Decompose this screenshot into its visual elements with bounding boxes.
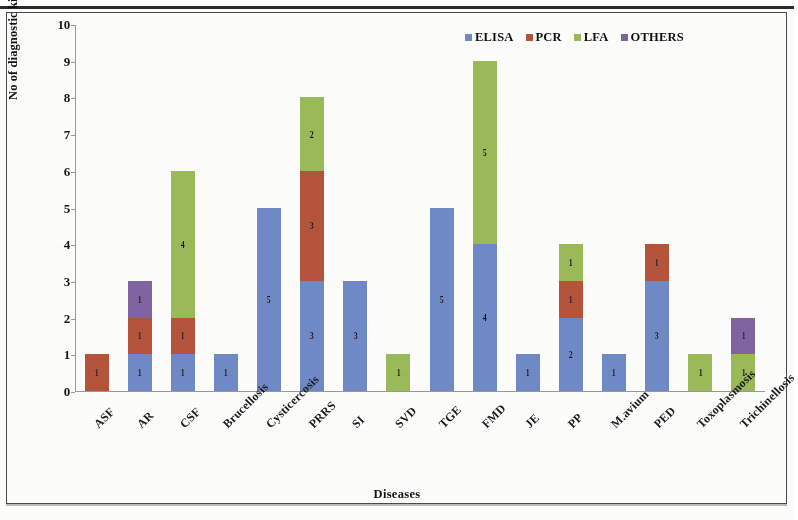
bar-segment-value: 1 (181, 367, 185, 378)
bar-stack[interactable]: 31 (645, 244, 669, 391)
y-tick-label: 2 (42, 311, 70, 327)
y-axis-line (75, 25, 76, 392)
bar-stack[interactable]: 1 (516, 354, 540, 391)
y-tick-mark (71, 25, 75, 26)
bar-segment-elisa[interactable]: 3 (645, 281, 669, 391)
bar-segment-value: 3 (353, 330, 357, 341)
bar-stack[interactable]: 1 (602, 354, 626, 391)
bar-segment-value: 1 (138, 294, 142, 305)
y-tick-label: 6 (42, 164, 70, 180)
y-tick-mark (71, 98, 75, 99)
bar-segment-elisa[interactable]: 1 (516, 354, 540, 391)
bar-segment-elisa[interactable]: 4 (473, 244, 497, 391)
figure-top-rule (0, 6, 794, 9)
bar-segment-value: 1 (526, 367, 530, 378)
bar-segment-pcr[interactable]: 3 (300, 171, 324, 281)
bar-segment-pcr[interactable]: 1 (171, 318, 195, 355)
bar-segment-value: 5 (267, 294, 271, 305)
y-tick-mark (71, 172, 75, 173)
plot-area: 012345678910 111111415332315451211131111… (75, 25, 765, 392)
y-tick-mark (71, 392, 75, 393)
y-axis-title-text: No of diagnostic kits (6, 0, 21, 100)
y-tick-mark (71, 245, 75, 246)
bar-segment-lfa[interactable]: 4 (171, 171, 195, 318)
bar-stack[interactable]: 1 (214, 354, 238, 391)
y-axis-title: No of diagnostic kits (6, 0, 21, 100)
y-tick-label: 5 (42, 201, 70, 217)
y-tick-label: 3 (42, 274, 70, 290)
bar-stack[interactable]: 114 (171, 171, 195, 391)
bar-segment-lfa[interactable]: 2 (300, 97, 324, 170)
bar-segment-lfa[interactable]: 1 (386, 354, 410, 391)
bar-segment-others[interactable]: 1 (128, 281, 152, 318)
bar-segment-value: 4 (181, 239, 185, 250)
y-tick-label: 10 (42, 17, 70, 33)
bar-stack[interactable]: 1 (386, 354, 410, 391)
bar-stack[interactable]: 5 (257, 208, 281, 392)
y-tick-label: 4 (42, 237, 70, 253)
bar-segment-elisa[interactable]: 5 (430, 208, 454, 392)
bar-segment-pcr[interactable]: 1 (559, 281, 583, 318)
y-tick-mark (71, 282, 75, 283)
bar-segment-value: 5 (440, 294, 444, 305)
y-tick-mark (71, 62, 75, 63)
bar-segment-value: 1 (138, 367, 142, 378)
bar-segment-value: 5 (483, 147, 487, 158)
bar-segment-value: 1 (741, 330, 745, 341)
figure-bottom-rule (6, 504, 787, 506)
x-axis-title: Diseases (0, 487, 794, 502)
bar-segment-elisa[interactable]: 1 (214, 354, 238, 391)
bar-segment-elisa[interactable]: 1 (602, 354, 626, 391)
bar-stack[interactable]: 3 (343, 281, 367, 391)
bar-segment-value: 1 (569, 294, 573, 305)
bar-segment-lfa[interactable]: 1 (688, 354, 712, 391)
bar-segment-value: 4 (483, 312, 487, 323)
bar-segment-value: 1 (95, 367, 99, 378)
bar-segment-lfa[interactable]: 5 (473, 61, 497, 245)
bar-stack[interactable]: 1 (85, 354, 109, 391)
y-tick-label: 1 (42, 347, 70, 363)
bar-segment-elisa[interactable]: 2 (559, 318, 583, 391)
bar-segment-value: 1 (224, 367, 228, 378)
bar-segment-elisa[interactable]: 5 (257, 208, 281, 392)
bar-segment-value: 1 (138, 330, 142, 341)
y-tick-label: 0 (42, 384, 70, 400)
bar-segment-elisa[interactable]: 1 (128, 354, 152, 391)
bar-segment-value: 1 (569, 257, 573, 268)
bar-segment-value: 1 (698, 367, 702, 378)
bar-stack[interactable]: 211 (559, 244, 583, 391)
x-axis-line (75, 391, 765, 392)
bar-segment-lfa[interactable]: 1 (559, 244, 583, 281)
y-tick-mark (71, 135, 75, 136)
y-tick-mark (71, 319, 75, 320)
bar-segment-value: 1 (655, 257, 659, 268)
bar-segment-value: 1 (396, 367, 400, 378)
bar-stack[interactable]: 45 (473, 61, 497, 391)
bar-segment-pcr[interactable]: 1 (645, 244, 669, 281)
y-tick-label: 8 (42, 90, 70, 106)
y-tick-mark (71, 355, 75, 356)
y-tick-mark (71, 209, 75, 210)
bar-segment-value: 3 (655, 330, 659, 341)
bar-segment-pcr[interactable]: 1 (85, 354, 109, 391)
y-tick-label: 7 (42, 127, 70, 143)
y-tick-label: 9 (42, 54, 70, 70)
bar-segment-value: 2 (569, 349, 573, 360)
bar-segment-value: 2 (310, 129, 314, 140)
bar-stack[interactable]: 1 (688, 354, 712, 391)
bar-segment-value: 1 (612, 367, 616, 378)
bar-segment-value: 3 (310, 220, 314, 231)
bar-stack[interactable]: 332 (300, 97, 324, 391)
bar-segment-others[interactable]: 1 (731, 318, 755, 355)
bar-segment-value: 1 (181, 330, 185, 341)
bar-stack[interactable]: 5 (430, 208, 454, 392)
bar-stack[interactable]: 111 (128, 281, 152, 391)
bar-segment-pcr[interactable]: 1 (128, 318, 152, 355)
bar-segment-elisa[interactable]: 1 (171, 354, 195, 391)
bar-segment-value: 3 (310, 330, 314, 341)
bar-segment-elisa[interactable]: 3 (343, 281, 367, 391)
